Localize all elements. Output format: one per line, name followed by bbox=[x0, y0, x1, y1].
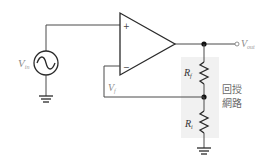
op-amp: + − bbox=[120, 13, 175, 75]
sine-wave-icon bbox=[37, 57, 55, 69]
plus-input-sign: + bbox=[123, 22, 130, 31]
output-terminal bbox=[235, 42, 239, 46]
vf-label: Vf bbox=[108, 82, 117, 94]
ground-symbol-output bbox=[197, 148, 211, 154]
circuit-diagram: Vin + − Vout Rf Vf Ri 回授 網路 bbox=[0, 0, 270, 166]
ground-symbol-source bbox=[39, 96, 53, 102]
vin-label: Vin bbox=[18, 57, 29, 70]
feedback-network-label-line1: 回授 bbox=[222, 83, 242, 95]
feedback-network-label-line2: 網路 bbox=[222, 97, 242, 109]
minus-input-sign: − bbox=[123, 63, 130, 72]
ac-source bbox=[34, 25, 58, 96]
vout-label: Vout bbox=[241, 38, 255, 50]
